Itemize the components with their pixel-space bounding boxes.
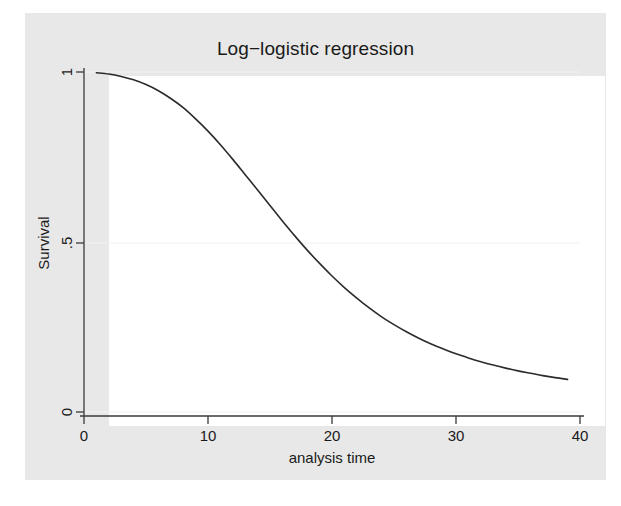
plot-svg: [25, 13, 606, 480]
y-tick-label-1: 1: [58, 68, 75, 76]
x-axis: [80, 416, 584, 424]
x-tick-label-10: 10: [200, 427, 217, 444]
x-tick-label-20: 20: [324, 427, 341, 444]
y-tick-label-0: 0: [58, 408, 75, 416]
y-axis-title: Survival: [35, 216, 52, 269]
x-tick-label-30: 30: [448, 427, 465, 444]
graph-region: Log−logistic regression: [25, 13, 606, 480]
gridlines: [84, 72, 580, 412]
y-tick-label-0.5: .5: [58, 237, 75, 250]
y-axis: [76, 68, 84, 416]
survival-curve: [96, 73, 567, 380]
x-axis-title: analysis time: [84, 449, 580, 466]
chart-screenshot: Log−logistic regression: [0, 0, 621, 506]
x-tick-label-0: 0: [80, 427, 88, 444]
x-tick-label-40: 40: [572, 427, 589, 444]
